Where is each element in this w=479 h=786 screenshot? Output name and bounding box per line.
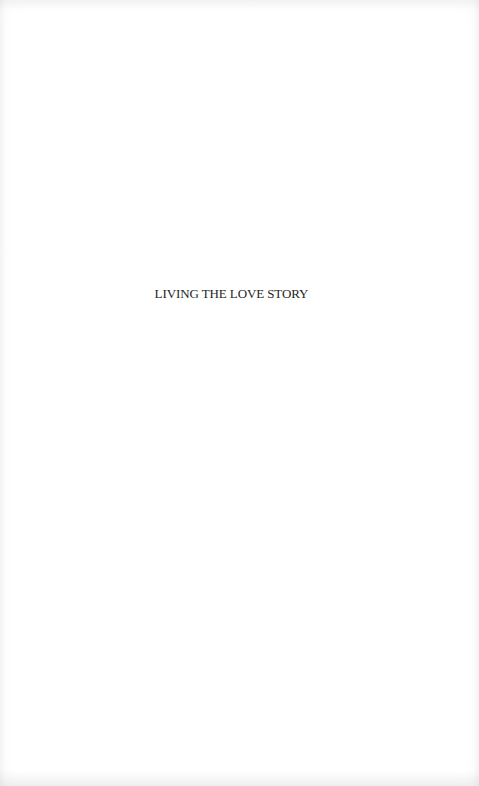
half-title: LIVING THE LOVE STORY xyxy=(0,286,463,302)
page-edge-shadow-top xyxy=(0,0,479,10)
page-edge-shadow-left xyxy=(0,0,6,786)
page-edge-shadow-right xyxy=(473,0,479,786)
page-edge-shadow-bottom xyxy=(0,770,479,786)
book-page: LIVING THE LOVE STORY xyxy=(0,0,479,786)
